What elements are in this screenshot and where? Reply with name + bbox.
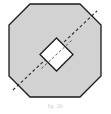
figure-container: ﬁg. 2b bbox=[0, 0, 111, 114]
figure-caption: ﬁg. 2b bbox=[0, 103, 111, 110]
technical-figure-drawing bbox=[0, 0, 111, 114]
